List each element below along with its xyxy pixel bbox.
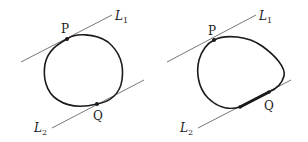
- left-figure: P Q L1 L2: [21, 9, 144, 137]
- segment-end-dot: [238, 105, 242, 109]
- convex-curve: [198, 37, 285, 109]
- line-l2-label: L2: [179, 121, 193, 137]
- diagram-canvas: P Q L1 L2 P Q L1 L2: [0, 0, 308, 142]
- line-l2-label: L2: [33, 121, 47, 137]
- point-q-label: Q: [93, 109, 103, 123]
- right-figure: P Q L1 L2: [167, 9, 291, 137]
- point-p-dot: [212, 38, 216, 42]
- point-q-dot: [95, 102, 99, 106]
- point-q-dot: [267, 90, 271, 94]
- point-p-label: P: [208, 24, 216, 38]
- point-p-label: P: [61, 22, 69, 36]
- line-l1-label: L1: [114, 9, 128, 25]
- line-l1-label: L1: [258, 9, 272, 25]
- point-p-dot: [65, 37, 69, 41]
- point-q-label: Q: [264, 99, 274, 113]
- convex-curve: [44, 35, 122, 106]
